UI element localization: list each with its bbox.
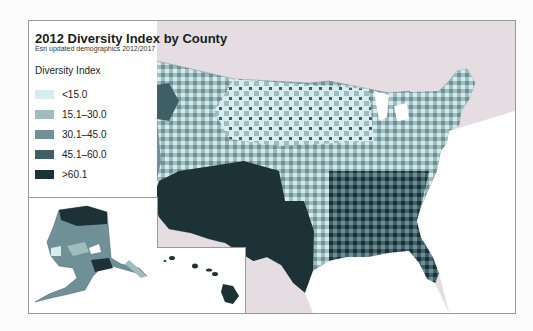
- hawaii-inset: [157, 247, 246, 314]
- legend-swatch: [35, 130, 54, 139]
- legend-swatch: [35, 90, 54, 99]
- legend-label: <15.0: [62, 89, 87, 100]
- alaska-inset: [29, 197, 158, 314]
- legend-item: 15.1–30.0: [35, 104, 107, 124]
- legend-item: <15.0: [35, 84, 107, 104]
- legend-swatch: [35, 110, 54, 119]
- map-title: 2012 Diversity Index by County: [35, 31, 227, 46]
- alaska-map: [29, 198, 157, 314]
- legend-label: 15.1–30.0: [62, 109, 107, 120]
- legend-item: 30.1–45.0: [35, 124, 107, 144]
- legend-label: 45.1–60.0: [62, 149, 107, 160]
- map-frame: 2012 Diversity Index by County Esri upda…: [28, 20, 516, 314]
- legend-label: >60.1: [62, 169, 87, 180]
- legend-title: Diversity Index: [35, 65, 107, 76]
- legend-swatch: [35, 150, 54, 159]
- legend-item: >60.1: [35, 164, 107, 184]
- legend-label: 30.1–45.0: [62, 129, 107, 140]
- legend: Diversity Index <15.0 15.1–30.0 30.1–45.…: [35, 65, 107, 184]
- hawaii-map: [157, 248, 245, 314]
- legend-item: 45.1–60.0: [35, 144, 107, 164]
- map-subtitle: Esri updated demographics 2012/2017: [35, 45, 155, 52]
- legend-swatch: [35, 170, 54, 179]
